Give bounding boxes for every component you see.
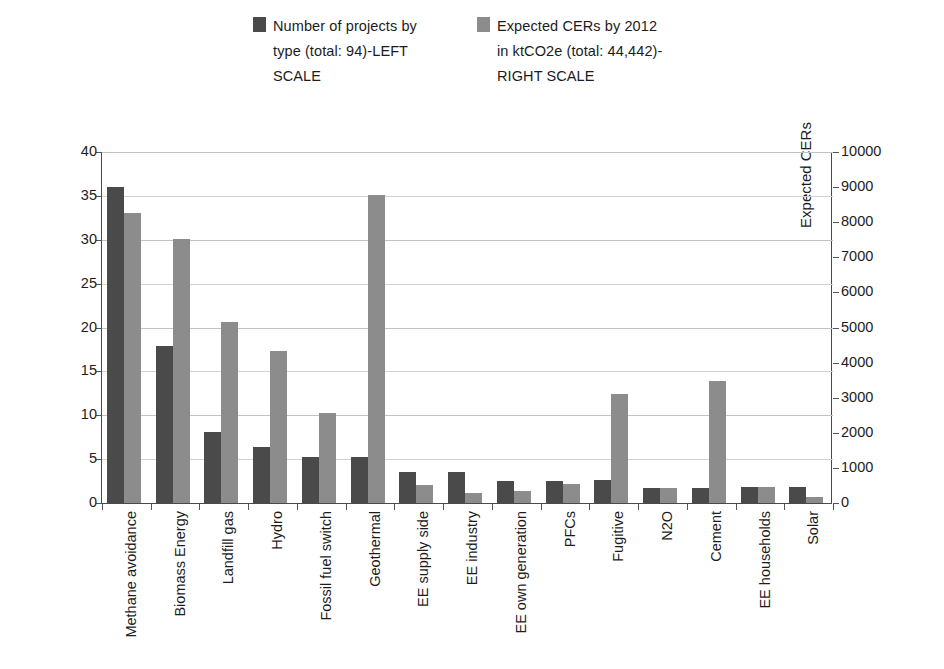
- y-axis-left-tick-label: 10: [37, 407, 97, 422]
- y-axis-right-tick-label: 8000: [841, 214, 911, 229]
- y-axis-left-tick-label: 15: [37, 363, 97, 378]
- bar-cers: [514, 491, 531, 503]
- plot-area: [101, 152, 832, 503]
- x-axis-tick: [784, 503, 785, 510]
- y-axis-right-tick-label: 0: [841, 495, 911, 510]
- bar-cers: [563, 484, 580, 503]
- bar-group: [736, 152, 785, 503]
- bar-projects: [643, 488, 660, 503]
- x-axis-category-label: EE industry: [464, 511, 480, 585]
- bar-projects: [741, 487, 758, 503]
- bar-projects: [448, 472, 465, 503]
- legend-item-cers: Expected CERs by 2012 in ktCO2e (total: …: [477, 14, 677, 106]
- bar-group: [297, 152, 346, 503]
- x-axis-tick: [443, 503, 444, 510]
- x-axis-category-label: EE supply side: [415, 511, 431, 607]
- bar-projects: [594, 480, 611, 503]
- y-axis-right-tick-label: 1000: [841, 460, 911, 475]
- y-axis-right-tick: [833, 152, 839, 153]
- y-axis-right-tick-label: 6000: [841, 284, 911, 299]
- y-axis-left-tick-label: 0: [37, 495, 97, 510]
- bar-group: [687, 152, 736, 503]
- bar-cers: [221, 322, 238, 503]
- legend-label-cers: Expected CERs by 2012 in ktCO2e (total: …: [497, 14, 662, 89]
- bar-projects: [156, 346, 173, 503]
- bar-cers: [368, 195, 385, 503]
- x-axis-category-label: Cement: [708, 511, 724, 562]
- bar-projects: [789, 487, 806, 503]
- bar-projects: [497, 481, 514, 503]
- y-axis-right-tick: [833, 222, 839, 223]
- bar-group: [102, 152, 151, 503]
- x-axis-category-label: Solar: [805, 511, 821, 545]
- x-axis-category-label: Biomass Energy: [172, 511, 188, 617]
- x-axis-tick: [638, 503, 639, 510]
- x-axis-tick: [589, 503, 590, 510]
- y-axis-right-tick: [833, 363, 839, 364]
- bar-group: [492, 152, 541, 503]
- x-axis-category-label: Methane avoidance: [123, 511, 139, 638]
- bar-group: [199, 152, 248, 503]
- bar-cers: [465, 493, 482, 503]
- x-axis-category-label: Landfill gas: [220, 511, 236, 584]
- y-axis-left-tick-label: 25: [37, 276, 97, 291]
- x-axis-tick: [199, 503, 200, 510]
- x-axis-category-label: PFCs: [562, 511, 578, 547]
- y-axis-right-tick: [833, 292, 839, 293]
- bar-cers: [758, 487, 775, 503]
- bar-cers: [319, 413, 336, 503]
- x-axis-line: [101, 503, 832, 504]
- legend-swatch-cers: [477, 17, 490, 32]
- bar-group: [638, 152, 687, 503]
- bar-projects: [351, 457, 368, 504]
- bar-group: [784, 152, 833, 503]
- bar-cers: [660, 488, 677, 503]
- y-axis-right-tick-label: 5000: [841, 320, 911, 335]
- x-axis-tick: [346, 503, 347, 510]
- bar-projects: [204, 432, 221, 503]
- x-axis-tick: [541, 503, 542, 510]
- x-axis-category-label: Geothermal: [367, 511, 383, 587]
- x-axis-tick: [297, 503, 298, 510]
- x-axis-category-label: EE own generation: [513, 511, 529, 634]
- x-axis-category-label: Hydro: [269, 511, 285, 550]
- y-axis-left-tick-label: 40: [37, 144, 97, 159]
- y-axis-right-tick-label: 10000: [841, 144, 911, 159]
- bar-group: [248, 152, 297, 503]
- x-axis-tick: [151, 503, 152, 510]
- x-axis-tick: [394, 503, 395, 510]
- bar-projects: [107, 187, 124, 503]
- bar-cers: [611, 394, 628, 503]
- legend-swatch-projects: [253, 17, 266, 32]
- y-axis-left-tick-label: 5: [37, 451, 97, 466]
- y-axis-left-tick-label: 20: [37, 320, 97, 335]
- x-axis-tick: [736, 503, 737, 510]
- bar-cers: [416, 485, 433, 503]
- bar-cers: [124, 213, 141, 503]
- y-axis-right-tick: [833, 328, 839, 329]
- bar-group: [443, 152, 492, 503]
- y-axis-right-tick-label: 9000: [841, 179, 911, 194]
- bar-projects: [399, 472, 416, 503]
- bar-cers: [173, 239, 190, 503]
- y-axis-left-tick-label: 35: [37, 188, 97, 203]
- x-axis-category-label: EE households: [757, 511, 773, 609]
- bar-cers: [270, 351, 287, 503]
- y-axis-right-tick: [833, 257, 839, 258]
- bar-group: [589, 152, 638, 503]
- bar-projects: [546, 481, 563, 503]
- x-axis-tick: [102, 503, 103, 510]
- x-axis-category-label: Fugitive: [610, 511, 626, 562]
- bar-projects: [253, 447, 270, 503]
- y-axis-right-tick-label: 7000: [841, 249, 911, 264]
- x-axis-category-label: Fossil fuel switch: [318, 511, 334, 621]
- x-axis-category-label: N2O: [659, 511, 675, 541]
- bar-group: [541, 152, 590, 503]
- bar-projects: [692, 488, 709, 503]
- legend-item-projects: Number of projects by type (total: 94)-L…: [253, 14, 453, 106]
- x-axis-tick: [492, 503, 493, 510]
- legend-label-projects: Number of projects by type (total: 94)-L…: [273, 14, 417, 89]
- x-axis-tick: [248, 503, 249, 510]
- bar-group: [346, 152, 395, 503]
- bar-group: [151, 152, 200, 503]
